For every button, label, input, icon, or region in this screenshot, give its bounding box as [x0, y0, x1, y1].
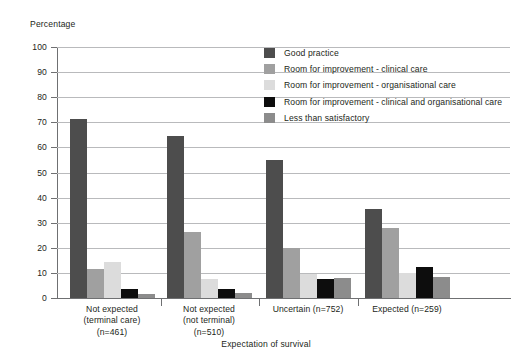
- legend-swatch: [264, 97, 275, 107]
- y-tick-label: 40: [21, 193, 47, 203]
- y-tick-label: 0: [21, 293, 47, 303]
- bar: [167, 136, 184, 298]
- bar: [104, 262, 121, 298]
- y-axis-title: Percentage: [30, 19, 75, 29]
- x-axis-category-label-line: (terminal care): [57, 315, 167, 326]
- y-tick-label: 20: [21, 243, 47, 253]
- x-axis-category-label: Not expected(terminal care)(n=461): [57, 304, 167, 338]
- bar: [365, 209, 382, 298]
- x-axis-line: [57, 298, 511, 299]
- x-axis-category-label-line: (n=510): [154, 327, 264, 338]
- bar: [235, 293, 252, 298]
- chart-legend: Good practiceRoom for improvement - clin…: [264, 45, 502, 126]
- y-tick-label: 70: [21, 117, 47, 127]
- legend-label: Room for improvement - organisational ca…: [284, 80, 456, 90]
- legend-label: Room for improvement - clinical and orga…: [284, 97, 502, 107]
- legend-swatch: [264, 113, 275, 123]
- legend-label: Less than satisfactory: [284, 113, 369, 123]
- bar: [382, 228, 399, 298]
- bar: [416, 267, 433, 298]
- x-axis-category-label-line: Expected (n=259): [352, 304, 462, 315]
- bar: [283, 248, 300, 298]
- legend-item[interactable]: Good practice: [264, 45, 502, 61]
- bar: [121, 289, 138, 298]
- bar: [300, 274, 317, 298]
- legend-swatch: [264, 64, 275, 74]
- bar: [218, 289, 235, 298]
- legend-label: Room for improvement - clinical care: [284, 64, 428, 74]
- y-tick-label: 90: [21, 67, 47, 77]
- x-axis-category-label-line: Uncertain (n=752): [253, 304, 363, 315]
- y-tick-label: 50: [21, 168, 47, 178]
- x-axis-category-label: Not expected(not terminal)(n=510): [154, 304, 264, 338]
- bar: [266, 160, 283, 298]
- x-axis-title: Expectation of survival: [0, 339, 532, 349]
- legend-swatch: [264, 80, 275, 90]
- y-tick-label: 100: [21, 42, 47, 52]
- bar-group: [167, 47, 252, 298]
- x-axis-category-label-line: (not terminal): [154, 315, 264, 326]
- bar: [184, 232, 201, 299]
- legend-swatch: [264, 48, 275, 58]
- legend-item[interactable]: Room for improvement - clinical and orga…: [264, 94, 502, 110]
- x-axis-category-label-line: Not expected: [57, 304, 167, 315]
- x-axis-category-label: Expected (n=259): [352, 304, 462, 315]
- y-tick-label: 60: [21, 142, 47, 152]
- legend-item[interactable]: Room for improvement - clinical care: [264, 61, 502, 77]
- chart-container: Percentage 0102030405060708090100 Not ex…: [0, 0, 532, 359]
- bar: [334, 278, 351, 298]
- bar: [138, 294, 155, 298]
- y-tick-mark: [51, 298, 57, 299]
- legend-label: Good practice: [284, 48, 339, 58]
- legend-item[interactable]: Room for improvement - organisational ca…: [264, 77, 502, 93]
- y-tick-label: 80: [21, 92, 47, 102]
- x-axis-category-label-line: Not expected: [154, 304, 264, 315]
- bar: [433, 277, 450, 298]
- bar: [201, 279, 218, 298]
- bar: [70, 119, 87, 298]
- x-axis-category-label-line: (n=461): [57, 327, 167, 338]
- y-tick-label: 30: [21, 218, 47, 228]
- legend-item[interactable]: Less than satisfactory: [264, 110, 502, 126]
- x-axis-category-label: Uncertain (n=752): [253, 304, 363, 315]
- y-tick-label: 10: [21, 268, 47, 278]
- bar: [317, 279, 334, 298]
- bar: [399, 273, 416, 298]
- bar: [87, 269, 104, 298]
- bar-group: [70, 47, 155, 298]
